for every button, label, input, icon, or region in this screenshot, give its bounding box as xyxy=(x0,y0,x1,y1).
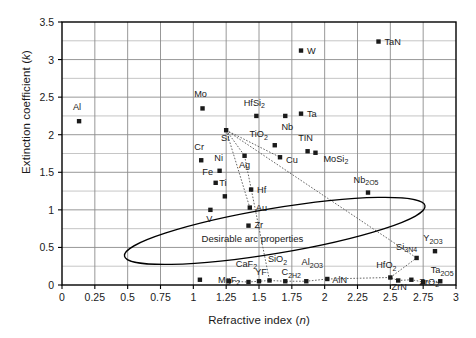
data-point-marker xyxy=(246,280,250,284)
data-point-label: Ni xyxy=(214,153,223,163)
data-point-marker xyxy=(217,169,221,173)
data-point-marker xyxy=(246,223,250,227)
x-tick-label: 0 xyxy=(59,291,65,303)
y-tick-label: 2 xyxy=(48,129,54,141)
data-point-marker xyxy=(409,278,413,282)
data-point-marker xyxy=(249,187,253,191)
data-point-marker xyxy=(421,280,425,284)
data-point-marker xyxy=(257,279,261,283)
data-point-label: HfSi2 xyxy=(244,98,265,109)
data-point-marker xyxy=(198,278,202,282)
data-point-label: Au xyxy=(256,203,267,213)
y-tick-label: 2.5 xyxy=(39,91,54,103)
data-point-marker xyxy=(433,249,437,253)
y-tick-label: 0.5 xyxy=(39,241,54,253)
data-point-label: Ta xyxy=(307,109,318,119)
data-point-marker xyxy=(223,194,227,198)
data-point-label: V xyxy=(206,214,213,224)
data-point-label: Mo xyxy=(194,89,207,99)
data-point-label: CaF2 xyxy=(236,259,257,270)
data-point-marker xyxy=(248,205,252,209)
data-point-label: Cu xyxy=(286,155,298,165)
data-point-label: TIN xyxy=(298,133,313,143)
data-point-label: HfO2 xyxy=(376,260,396,271)
data-point-marker xyxy=(273,143,277,147)
data-point-marker xyxy=(325,277,329,281)
data-point-marker xyxy=(414,256,418,260)
x-tick-label: 0.5 xyxy=(120,291,135,303)
data-point-label: Al2O3 xyxy=(302,257,324,268)
x-tick-label: 3 xyxy=(453,291,459,303)
data-point-marker xyxy=(199,158,203,162)
data-point-marker xyxy=(304,279,308,283)
data-point-marker xyxy=(283,114,287,118)
data-point-marker xyxy=(213,181,217,185)
x-tick-label: 2 xyxy=(322,291,328,303)
x-tick-label: 2.5 xyxy=(383,291,398,303)
data-point-label: Si3N4 xyxy=(396,242,417,253)
x-tick-label: 1.5 xyxy=(252,291,267,303)
x-tick-label: 1.25 xyxy=(216,291,237,303)
data-point-marker xyxy=(200,106,204,110)
data-point-marker xyxy=(278,155,282,159)
data-point-label: SiO2 xyxy=(268,254,287,265)
data-point-label: Ag xyxy=(239,160,250,170)
data-point-marker xyxy=(366,190,370,194)
y-tick-label: 0 xyxy=(48,279,54,291)
x-tick-label: 1 xyxy=(190,291,196,303)
data-point-marker xyxy=(77,119,81,123)
data-point-label: Si xyxy=(221,133,229,143)
data-point-marker xyxy=(227,279,231,283)
data-point-label: C2H2 xyxy=(282,267,302,278)
data-point-label: Al xyxy=(73,102,81,112)
data-point-marker xyxy=(305,149,309,153)
y-tick-label: 3.5 xyxy=(39,16,54,28)
data-point-marker xyxy=(313,151,317,155)
data-point-label: Nb2O5 xyxy=(354,175,379,186)
data-point-label: Zr xyxy=(254,220,263,230)
y-tick-label: 1 xyxy=(48,204,54,216)
data-point-label: Ti xyxy=(219,178,226,188)
data-point-label: Hf xyxy=(257,185,267,195)
scatter-chart-figure: Extinction coefficient (k) Refractive in… xyxy=(0,0,476,338)
data-point-marker xyxy=(224,128,228,132)
plot-canvas: Desirable arc properties AlMoWTaNHfSi2Ta… xyxy=(0,0,476,338)
data-point-marker xyxy=(242,154,246,158)
x-tick-label: 0.25 xyxy=(85,291,106,303)
data-point-label: TaN xyxy=(385,37,401,47)
y-tick-label: 3 xyxy=(48,54,54,66)
data-point-label: W xyxy=(307,46,316,56)
y-tick-label: 1.5 xyxy=(39,166,54,178)
data-point-marker xyxy=(376,39,380,43)
data-point-label: Cr xyxy=(194,142,204,152)
data-point-marker xyxy=(283,279,287,283)
x-tick-label: 1.75 xyxy=(282,291,303,303)
data-point-marker xyxy=(299,111,303,115)
data-point-marker xyxy=(254,114,258,118)
data-point-label: YF xyxy=(255,267,267,277)
x-tick-label: 2.25 xyxy=(347,291,368,303)
data-point-label: MoSi2 xyxy=(323,154,348,165)
data-point-label: Y2O3 xyxy=(423,233,442,244)
data-point-marker xyxy=(388,275,392,279)
data-point-marker xyxy=(208,208,212,212)
data-point-marker xyxy=(267,278,271,282)
data-point-label: AlN xyxy=(332,275,347,285)
data-point-label: Ta2O5 xyxy=(431,265,454,276)
x-tick-label: 0.75 xyxy=(150,291,171,303)
data-points: AlMoWTaNHfSi2TaNbSiCrNiAgCuTiO2TINMoSi2F… xyxy=(73,37,454,292)
data-point-marker xyxy=(299,48,303,52)
data-point-marker xyxy=(438,279,442,283)
data-point-label: Nb xyxy=(281,122,293,132)
ellipse-annotation-label: Desirable arc properties xyxy=(202,233,304,244)
data-point-label: TiO2 xyxy=(250,129,268,140)
x-tick-label: 2.75 xyxy=(413,291,434,303)
data-point-label: Fe xyxy=(202,167,213,177)
